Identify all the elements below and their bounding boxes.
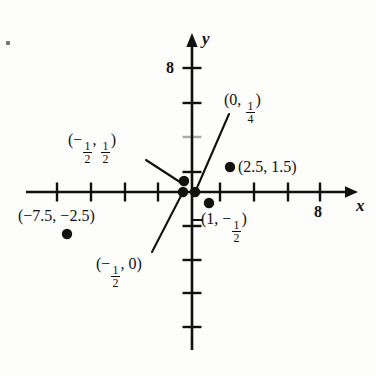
fraction-one-half-b: 12 xyxy=(101,140,110,165)
paren-close: ) xyxy=(111,131,116,148)
y-tick-label-8: 8 xyxy=(166,60,174,76)
data-point-neg-half-half xyxy=(179,176,189,186)
data-point-2p5-1p5 xyxy=(225,162,235,172)
paren-close: ) xyxy=(242,210,247,227)
fraction-one-half-a: 12 xyxy=(83,140,92,165)
label-suffix: , 0) xyxy=(121,255,142,272)
y-axis-label: y xyxy=(202,30,210,47)
x-axis-label: x xyxy=(356,197,365,214)
point-label-neg7p5-neg2p5: (−7.5, −2.5) xyxy=(18,208,95,224)
data-point-neg7p5-neg2p5 xyxy=(62,229,72,239)
point-label-neg-half-zero: (−12, 0) xyxy=(96,256,142,289)
minus-sign: − xyxy=(101,255,110,272)
data-point-zero-quarter xyxy=(190,187,200,197)
fraction-one-half: 12 xyxy=(232,219,241,244)
data-point-neg-half-zero xyxy=(178,187,188,197)
data-point-one-neg-half xyxy=(204,198,214,208)
leader-line-neg-half-half xyxy=(146,160,183,184)
paren-close: ) xyxy=(255,91,260,108)
point-label-neg-half-half: (−12, 12) xyxy=(68,132,116,165)
x-tick-label-8: 8 xyxy=(314,204,322,220)
comma: , xyxy=(93,131,101,148)
label-prefix: (0, xyxy=(224,91,245,108)
minus-sign: − xyxy=(73,131,82,148)
coordinate-plane-figure: y x 8 8 (−12, 12) (0, 14) (2.5, 1.5) (−7… xyxy=(0,0,376,376)
axes-and-plot-svg xyxy=(0,0,376,376)
minus-sign: − xyxy=(222,210,231,227)
point-label-zero-quarter: (0, 14) xyxy=(224,92,261,125)
fraction-one-half: 12 xyxy=(111,264,120,289)
fraction-one-quarter: 14 xyxy=(246,100,255,125)
point-label-2p5-1p5: (2.5, 1.5) xyxy=(238,159,297,175)
label-prefix: (1, xyxy=(201,210,222,227)
point-label-one-neg-half: (1, −12) xyxy=(201,211,247,244)
leader-line-zero-quarter xyxy=(196,114,229,190)
